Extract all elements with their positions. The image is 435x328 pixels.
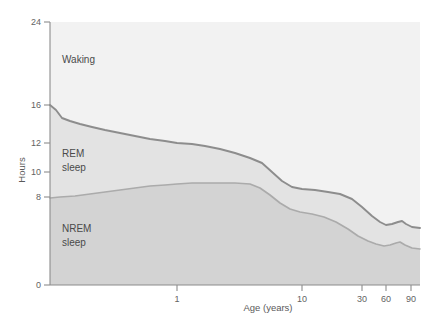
y-tick-label-24: 24	[31, 17, 41, 27]
sleep-across-lifespan-chart: 24 16 12 10 8 0 1 10 30 60 90 Hours Age …	[0, 0, 435, 328]
y-tick-label-16: 16	[31, 100, 41, 110]
x-tick-label-60: 60	[381, 294, 391, 304]
y-tick-label-10: 10	[31, 167, 41, 177]
y-tick-label-12: 12	[31, 138, 41, 148]
nrem-sleep-label-line1: NREM	[62, 223, 91, 234]
waking-label: Waking	[62, 54, 95, 65]
nrem-sleep-label-line2: sleep	[62, 237, 86, 248]
x-tick-label-10: 10	[297, 294, 307, 304]
x-tick-label-30: 30	[357, 294, 367, 304]
y-tick-label-8: 8	[36, 192, 41, 202]
rem-sleep-label-line1: REM	[62, 148, 84, 159]
y-axis-title: Hours	[16, 157, 27, 183]
x-axis-title: Age (years)	[243, 302, 292, 313]
x-tick-label-90: 90	[406, 294, 416, 304]
chart-figure: 24 16 12 10 8 0 1 10 30 60 90 Hours Age …	[0, 0, 435, 328]
x-tick-label-1: 1	[174, 294, 179, 304]
y-tick-label-0: 0	[36, 280, 41, 290]
rem-sleep-label-line2: sleep	[62, 162, 86, 173]
